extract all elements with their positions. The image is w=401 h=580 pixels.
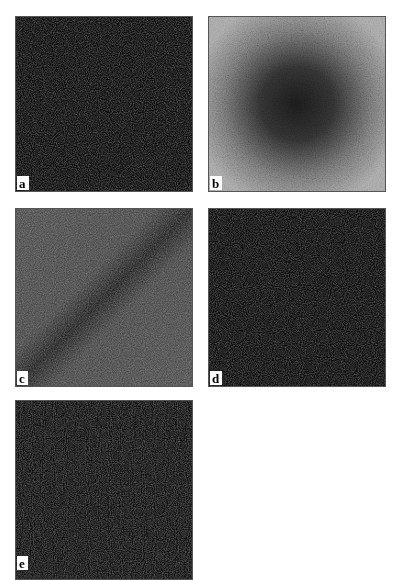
panel-b: b (208, 16, 386, 192)
panel-a: a (15, 16, 193, 192)
noise-image-d (209, 209, 385, 386)
noise-image-b (209, 17, 385, 191)
panel-label-c: c (17, 371, 28, 385)
panel-label-a: a (17, 176, 29, 190)
noise-image-c (16, 209, 192, 386)
panel-label-e: e (17, 556, 28, 570)
noise-image-e (16, 401, 192, 579)
panel-e: e (15, 400, 193, 580)
panel-d: d (208, 208, 386, 387)
panel-label-b: b (210, 176, 222, 190)
noise-image-a (16, 17, 192, 191)
panel-label-d: d (210, 371, 222, 385)
panel-c: c (15, 208, 193, 387)
